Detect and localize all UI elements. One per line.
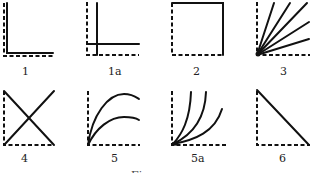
panel-1: 1 [4, 3, 54, 78]
panel-5a-label: 5a [191, 152, 205, 165]
panel-5a-curve-1 [173, 92, 191, 144]
panel-5a: 5a [172, 91, 228, 165]
panel-3-origin [256, 52, 261, 57]
panel-6: 6 [257, 90, 310, 165]
panel-6-label: 6 [279, 152, 286, 165]
panel-1a-axes [87, 2, 139, 55]
panel-6-diagonal-line [257, 90, 309, 145]
panel-2-box [172, 3, 223, 55]
panel-1-axes [4, 3, 54, 56]
panel-5-lower-curve [88, 117, 139, 145]
panel-2-label: 2 [193, 65, 200, 78]
panel-3: 3 [256, 2, 311, 78]
panel-5a-curve-3 [173, 109, 222, 144]
panel-2-axes [172, 3, 223, 55]
figure-caption: Figure [131, 169, 168, 173]
panel-3-label: 3 [280, 65, 287, 78]
panel-4: 4 [4, 91, 54, 165]
panel-1a-label: 1a [108, 65, 122, 78]
panel-2: 2 [172, 3, 223, 78]
figure-diagram: 1 1a 2 3 4 5 [0, 0, 315, 173]
panel-5: 5 [88, 91, 140, 165]
panel-4-label: 4 [21, 152, 28, 165]
panel-1-curve [7, 3, 53, 53]
panel-1a: 1a [87, 2, 139, 78]
panel-1-label: 1 [22, 65, 29, 78]
panel-5-label: 5 [111, 152, 118, 165]
